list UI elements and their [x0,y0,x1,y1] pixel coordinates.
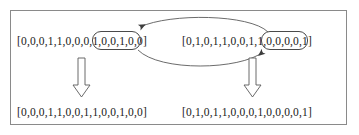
parent-b-prefix: [0,1,0,1,1,0,0, [182,35,248,47]
parent-a-vector: [0,0,0,1,1,0,0,0,1,0,0,1,0,0] [17,34,147,48]
child-b-vector: [0,1,0,1,1,0,0,0,1,0,0,0,0,1] [182,105,312,119]
parent-b-segment: 1,1,0,0, [248,35,284,47]
crossover-diagram: [0,0,0,1,1,0,0,0,1,0,0,1,0,0] [0,1,0,1,1… [0,0,359,135]
parent-b-vector: [0,1,0,1,1,0,0,1,1,0,0,0,0,1] [182,34,312,48]
child-a-vector: [0,0,0,1,1,0,0,1,1,0,0,1,0,0] [17,105,147,119]
parent-a-suffix: 1,0,0] [119,35,147,47]
parent-a-segment: 0,1,0,0, [83,35,119,47]
parent-b-suffix: 0,0,1] [284,35,312,47]
parent-a-prefix: [0,0,0,1,1,0,0, [17,35,83,47]
